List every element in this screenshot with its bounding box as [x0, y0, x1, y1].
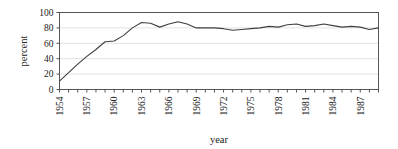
chart-figure: 020406080100 195419571960196319661969197…	[0, 0, 398, 149]
x-tick-label: 1954	[55, 96, 65, 115]
x-tick-label: 1963	[137, 96, 147, 115]
x-tick-label: 1978	[274, 96, 284, 115]
y-tick-label: 60	[44, 39, 54, 49]
y-tick-label: 100	[39, 8, 54, 18]
y-tick-label: 80	[44, 23, 54, 33]
x-tick-label: 1960	[109, 96, 119, 115]
x-axis-title: year	[210, 134, 229, 145]
y-tick-label: 0	[49, 85, 54, 95]
y-tick-label: 20	[44, 69, 54, 79]
x-tick-label: 1975	[246, 96, 256, 115]
y-tick-label: 40	[44, 54, 54, 64]
line-chart: 020406080100 195419571960196319661969197…	[0, 0, 398, 149]
x-tick-label: 1966	[164, 96, 174, 115]
y-axis-title: percent	[18, 35, 29, 66]
x-tick-label: 1987	[356, 96, 366, 115]
x-tick-label: 1984	[328, 96, 338, 115]
x-tick-label: 1981	[301, 96, 311, 115]
x-tick-label: 1969	[192, 96, 202, 115]
x-tick-label: 1957	[82, 96, 92, 115]
x-tick-label: 1972	[219, 96, 229, 115]
